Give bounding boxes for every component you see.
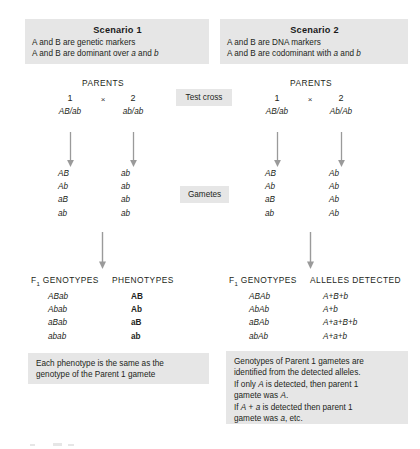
scenario1-genotypes-word: GENOTYPES bbox=[43, 275, 99, 285]
list-item: A+B+b bbox=[323, 290, 357, 303]
list-item: A+b bbox=[323, 303, 357, 316]
scenario2-note-line1: Genotypes of Parent 1 gametes are bbox=[234, 356, 400, 367]
scenario2-note-line4-prefix: gamete was bbox=[234, 391, 280, 400]
scenario2-note-line4-suffix: . bbox=[286, 391, 288, 400]
scenario1-phenotypes-header: PHENOTYPES bbox=[112, 275, 174, 285]
list-item: aB bbox=[131, 316, 143, 329]
scenario2-cross-symbol: × bbox=[303, 95, 317, 104]
list-item: abab bbox=[48, 330, 68, 343]
scenario2-note-line3: If only A is detected, then parent 1 bbox=[234, 379, 400, 390]
scenario1-title: Scenario 1 bbox=[32, 24, 203, 36]
scenario1-f1-genotypes-header: F1 GENOTYPES bbox=[31, 275, 99, 287]
scenario2-note-line5-suffix: is detected then parent 1 bbox=[260, 403, 352, 412]
gametes-label: Gametes bbox=[188, 190, 221, 199]
list-item: ab bbox=[121, 180, 130, 193]
list-item: abAb bbox=[249, 330, 270, 343]
scenario2-parent1-number: 1 bbox=[267, 93, 287, 103]
list-item: ab bbox=[121, 207, 130, 220]
list-item: ab bbox=[265, 207, 276, 220]
scenario2-note-line6-prefix: gamete was bbox=[234, 414, 280, 423]
list-item: A+a+B+b bbox=[323, 316, 357, 329]
scenario1-cross-symbol: × bbox=[96, 95, 110, 104]
scenario1-f1-arrow bbox=[96, 232, 109, 270]
list-item: aBab bbox=[48, 316, 68, 329]
list-item: aBAb bbox=[249, 316, 270, 329]
scenario2-description-line1: A and B are DNA markers bbox=[227, 37, 402, 48]
list-item: A+a+b bbox=[323, 330, 357, 343]
scenario2-line2-prefix: A and B are codominant with bbox=[227, 49, 334, 58]
scenario1-parent1-genotype: AB/ab bbox=[48, 106, 92, 117]
scenario1-parent2-number: 2 bbox=[123, 93, 143, 103]
scenario1-f1-genotypes-list: ABab Abab aBab abab bbox=[48, 290, 68, 343]
scenario2-note-line6: gamete was a, etc. bbox=[234, 413, 400, 424]
scenario1-f1-subscript: 1 bbox=[37, 281, 40, 287]
scenario1-parent2-genotype: ab/ab bbox=[111, 106, 155, 117]
scenario2-line2-allele-b: b bbox=[356, 49, 361, 58]
scenario1-line2-conjunction: and bbox=[136, 49, 154, 58]
scenario1-header-box: Scenario 1 A and B are genetic markers A… bbox=[25, 19, 209, 64]
scenario2-note-line5-plus: + bbox=[246, 403, 255, 412]
list-item: Abab bbox=[48, 303, 68, 316]
list-item: ABAb bbox=[249, 290, 270, 303]
scenario1-description-line1: A and B are genetic markers bbox=[32, 37, 203, 48]
list-item: ab bbox=[131, 330, 143, 343]
list-item: AB bbox=[58, 167, 69, 180]
scenario2-note-line2: identified from the detected alleles. bbox=[234, 367, 400, 378]
scenario1-line2-allele-b: b bbox=[154, 49, 159, 58]
scenario2-note-box: Genotypes of Parent 1 gametes are identi… bbox=[226, 351, 408, 424]
scenario2-parent2-number: 2 bbox=[331, 93, 351, 103]
genetics-testcross-figure: Scenario 1 A and B are genetic markers A… bbox=[0, 0, 420, 449]
scenario2-parent2-genotype: Ab/Ab bbox=[319, 106, 363, 117]
scan-artifact bbox=[53, 443, 62, 446]
scenario1-note-line2: genotype of the Parent 1 gamete bbox=[36, 369, 201, 380]
list-item: Ab bbox=[131, 303, 143, 316]
scenario2-note-line4: gamete was A. bbox=[234, 390, 400, 401]
list-item: Ab bbox=[265, 180, 276, 193]
test-cross-label-box: Test cross bbox=[176, 89, 232, 106]
scenario1-description-line2: A and B are dominant over a and b bbox=[32, 48, 203, 59]
scenario1-note-line1: Each phenotype is the same as the bbox=[36, 358, 201, 369]
list-item: Ab bbox=[58, 180, 69, 193]
list-item: Ab bbox=[329, 180, 339, 193]
scenario1-note-box: Each phenotype is the same as the genoty… bbox=[28, 353, 209, 384]
list-item: ABab bbox=[48, 290, 68, 303]
scenario1-phenotypes-list: AB Ab aB ab bbox=[131, 290, 143, 343]
list-item: Ab bbox=[329, 207, 339, 220]
list-item: Ab bbox=[329, 167, 339, 180]
test-cross-label: Test cross bbox=[186, 93, 223, 102]
scenario2-note-line5-prefix: If bbox=[234, 403, 241, 412]
scenario2-description-line2: A and B are codominant with a and b bbox=[227, 48, 402, 59]
list-item: AbAb bbox=[249, 303, 270, 316]
scenario2-line2-conjunction: and bbox=[338, 49, 356, 58]
scenario2-parent1-arrow bbox=[271, 132, 284, 168]
list-item: ab bbox=[58, 207, 69, 220]
scenario2-parent1-gametes-list: AB Ab aB ab bbox=[265, 167, 276, 220]
scenario1-parent1-arrow bbox=[64, 132, 77, 168]
scenario2-parent2-gametes-list: Ab Ab Ab Ab bbox=[329, 167, 339, 220]
scenario2-parents-label: PARENTS bbox=[290, 78, 332, 88]
scenario2-alleles-detected-list: A+B+b A+b A+a+B+b A+a+b bbox=[323, 290, 357, 343]
list-item: aB bbox=[265, 193, 276, 206]
scenario2-note-line5: If A + a is detected then parent 1 bbox=[234, 402, 400, 413]
scenario2-f1-subscript: 1 bbox=[235, 281, 238, 287]
scenario2-parent2-arrow bbox=[335, 132, 348, 168]
scenario2-note-line6-suffix: , etc. bbox=[285, 414, 303, 423]
scan-artifact bbox=[68, 444, 74, 446]
list-item: ab bbox=[121, 167, 130, 180]
scenario1-parent1-number: 1 bbox=[60, 93, 80, 103]
gametes-label-box: Gametes bbox=[180, 186, 229, 203]
scenario2-f1-genotypes-list: ABAb AbAb aBAb abAb bbox=[249, 290, 270, 343]
scenario2-parent1-genotype: AB/ab bbox=[255, 106, 299, 117]
scenario2-genotypes-word: GENOTYPES bbox=[241, 275, 297, 285]
scan-artifact bbox=[30, 444, 35, 446]
list-item: AB bbox=[265, 167, 276, 180]
list-item: Ab bbox=[329, 193, 339, 206]
scenario1-parent2-arrow bbox=[127, 132, 140, 168]
scenario2-alleles-detected-header: ALLELES DETECTED bbox=[310, 275, 401, 285]
scenario2-f1-genotypes-header: F1 GENOTYPES bbox=[229, 275, 297, 287]
scenario1-parents-label: PARENTS bbox=[82, 78, 124, 88]
scenario1-parent2-gametes-list: ab ab ab ab bbox=[121, 167, 130, 220]
scenario2-f1-arrow bbox=[304, 232, 317, 270]
list-item: aB bbox=[58, 193, 69, 206]
list-item: AB bbox=[131, 290, 143, 303]
